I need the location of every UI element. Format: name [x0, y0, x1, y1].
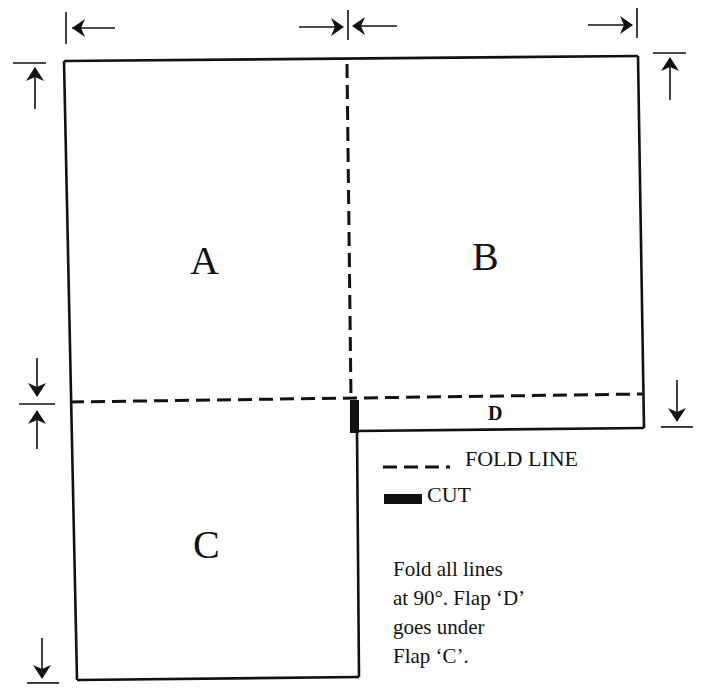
panel-label-a: A — [190, 241, 219, 281]
top-dimension-arrows — [66, 8, 637, 44]
panel-label-b: B — [472, 237, 499, 277]
right-dimension-arrows — [653, 53, 693, 427]
instruction-line: at 90°. Flap ‘D’ — [393, 584, 525, 613]
instruction-line: goes under — [393, 613, 525, 642]
fold-line-ab — [347, 64, 351, 398]
left-dimension-arrows — [13, 63, 59, 683]
panel-label-c: C — [193, 525, 220, 565]
legend-fold-line-label: FOLD LINE — [465, 448, 578, 470]
legend-cut-label: CUT — [427, 484, 471, 506]
folding-template-diagram — [0, 0, 707, 693]
instruction-line: Flap ‘C’. — [393, 642, 525, 671]
legend-cut-sample — [384, 494, 422, 504]
instruction-note: Fold all lines at 90°. Flap ‘D’ goes und… — [393, 555, 525, 671]
instruction-line: Fold all lines — [393, 555, 525, 584]
fold-lines — [70, 64, 642, 402]
panel-outlines — [64, 56, 644, 680]
flap-label-d: D — [488, 403, 502, 423]
cut-mark — [350, 400, 359, 433]
